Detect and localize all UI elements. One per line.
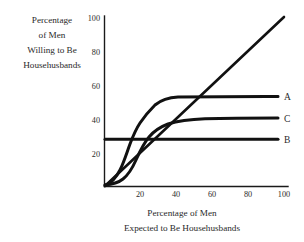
series-label-b: B: [284, 135, 290, 145]
y-tick-label-20: 20: [92, 150, 100, 159]
y-tick-label-60: 60: [92, 82, 100, 91]
series-label-c: C: [284, 114, 290, 124]
y-axis-title-line-2: of Men: [39, 30, 66, 40]
x-tick-label-40: 40: [172, 190, 180, 199]
x-tick-label-20: 20: [136, 190, 144, 199]
y-axis-title-line-4: Househusbands: [23, 60, 81, 70]
y-tick-label-100: 100: [88, 14, 100, 23]
x-axis-title-line-1: Percentage of Men: [147, 208, 217, 218]
reference-diagonal-line: [105, 17, 284, 186]
y-axis-title-line-1: Percentage: [32, 15, 72, 25]
x-tick-label-60: 60: [208, 190, 216, 199]
chart-figure: 100 80 60 40 20 20 40 60 80 100 A C B Pe…: [0, 0, 304, 242]
series-label-a: A: [284, 92, 291, 102]
y-tick-label-40: 40: [92, 116, 100, 125]
x-tick-label-100: 100: [278, 190, 290, 199]
x-axis-title-line-2: Expected to Be Househusbands: [124, 223, 241, 233]
y-tick-label-80: 80: [92, 48, 100, 57]
curve-c: [105, 118, 278, 185]
y-axis-title-line-3: Willing to Be: [27, 45, 77, 55]
x-tick-label-80: 80: [244, 190, 252, 199]
chart-canvas: 100 80 60 40 20 20 40 60 80 100 A C B Pe…: [0, 0, 304, 242]
